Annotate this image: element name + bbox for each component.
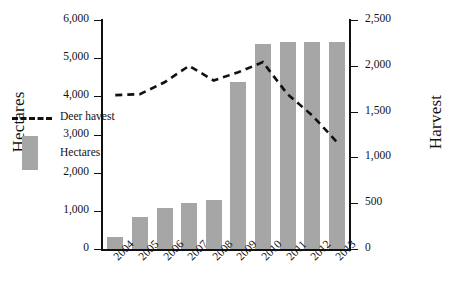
right-axis-tick-label: 2,000 [365, 58, 411, 70]
right-axis-tick-label: 1,500 [365, 104, 411, 116]
right-axis-tick-label: 0 [365, 241, 411, 253]
legend-item-hectares: Hectares [10, 138, 160, 168]
right-axis-tick-label: 2,500 [365, 12, 411, 24]
left-axis-tick [94, 211, 102, 212]
left-axis-tick [94, 173, 102, 174]
y-axis-right-title: Harvest [426, 67, 446, 177]
chart-container: Hectares Harvest 01,0002,0003,0004,0005,… [0, 0, 452, 291]
left-axis-tick-label: 0 [43, 241, 89, 253]
left-axis-tick [94, 249, 102, 250]
right-axis-tick [350, 112, 358, 113]
left-axis-tick [94, 20, 102, 21]
left-axis-tick [94, 58, 102, 59]
legend-label-deer-harvest: Deer havest [60, 110, 115, 122]
left-axis-tick-label: 6,000 [43, 12, 89, 24]
right-axis-tick-label: 1,000 [365, 149, 411, 161]
right-axis-tick [350, 20, 358, 21]
filled-rect-swatch-icon [22, 136, 38, 170]
legend-label-hectares: Hectares [60, 146, 100, 158]
left-axis-tick-label: 5,000 [43, 50, 89, 62]
right-axis-tick [350, 203, 358, 204]
left-axis-tick-label: 4,000 [43, 88, 89, 100]
right-axis-tick-label: 500 [365, 195, 411, 207]
dashed-line-swatch-icon [12, 117, 52, 120]
right-axis-tick [350, 157, 358, 158]
left-axis-tick [94, 96, 102, 97]
axis-right-spine [349, 19, 351, 250]
left-axis-tick-label: 1,000 [43, 203, 89, 215]
right-axis-tick [350, 66, 358, 67]
chart-legend: Deer havest Hectares [10, 108, 160, 168]
legend-item-deer-harvest: Deer havest [10, 108, 160, 138]
